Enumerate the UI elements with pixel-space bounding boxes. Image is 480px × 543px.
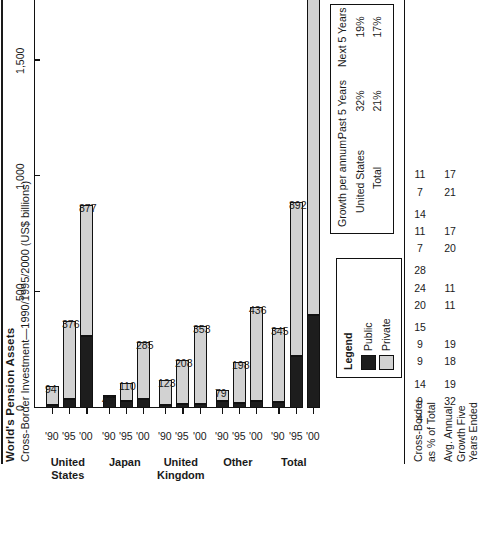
annotation-cell-share: 28	[400, 264, 440, 276]
bar-segment-private	[307, 0, 320, 315]
bar-value-label: 94	[45, 383, 57, 395]
value-tick-label: 1,000	[14, 147, 26, 207]
bar-value-label: 208	[175, 357, 193, 369]
category-tick-label: '90	[158, 430, 172, 442]
annotation-cell-growth: 21	[430, 186, 470, 198]
category-tick-label: '00	[249, 430, 263, 442]
group-label: United Kingdom	[155, 456, 207, 481]
bar-value-label: 345	[271, 325, 289, 337]
value-axis-line	[34, 0, 35, 408]
bar-value-label: 79	[215, 387, 227, 399]
bar-segment-private	[194, 326, 207, 404]
legend-swatch-public	[361, 355, 376, 370]
category-tick	[69, 408, 70, 414]
category-tick-label: '00	[79, 430, 93, 442]
value-tick-label: 1,500	[14, 31, 26, 91]
growth-row0-past: 32%	[354, 81, 366, 121]
bar-segment-public	[307, 315, 320, 408]
bar-value-label: 123	[158, 377, 176, 389]
category-tick-label: '90	[215, 430, 229, 442]
category-tick	[296, 408, 297, 414]
annotation-cell-growth: 11	[430, 299, 470, 311]
bar-value-label: 285	[136, 339, 154, 351]
table-row	[250, 307, 263, 408]
legend-box: Legend Public Private	[336, 258, 402, 378]
value-tick	[34, 175, 40, 176]
growth-row1-next: 17%	[371, 7, 383, 47]
category-tick	[126, 408, 127, 414]
category-tick-label: '90	[102, 430, 116, 442]
category-tick-label: '00	[136, 430, 150, 442]
table-row	[290, 202, 303, 408]
bar-value-label: 877	[79, 202, 97, 214]
annotation-cell-growth: 11	[430, 282, 470, 294]
group-label: Other	[212, 456, 264, 469]
bar-segment-public	[137, 399, 150, 408]
bar-value-label: 198	[232, 359, 250, 371]
category-tick	[86, 408, 87, 414]
annotation-cell-share: 14	[400, 208, 440, 220]
category-tick-label: '95	[62, 430, 76, 442]
bar-segment-public	[216, 401, 229, 408]
category-tick	[165, 408, 166, 414]
value-tick	[34, 407, 40, 408]
category-tick	[239, 408, 240, 414]
value-tick	[34, 59, 40, 60]
table-row	[80, 205, 93, 408]
bar-segment-private	[290, 202, 303, 356]
bar-segment-public	[120, 401, 133, 408]
growth-row0-next: 19%	[354, 7, 366, 47]
growth-col2-header: Next 5 Years	[336, 7, 348, 67]
category-tick-label: '90	[271, 430, 285, 442]
category-tick-label: '00	[306, 430, 320, 442]
bar-value-label: 49	[102, 394, 114, 406]
table-row	[194, 326, 207, 408]
annotation-cell-growth: 17	[430, 168, 470, 180]
table-row	[63, 321, 76, 408]
table-row	[137, 342, 150, 408]
growth-row0-label: United States	[354, 150, 366, 213]
category-tick	[256, 408, 257, 414]
bar-segment-public	[80, 336, 93, 408]
annotation-table: Cross-Border as % of Total Avg. Annual G…	[404, 0, 470, 470]
bar-value-label: 436	[249, 304, 267, 316]
annotation-cell-growth: 19	[430, 378, 470, 390]
annotation-cell-share: 15	[400, 321, 440, 333]
value-tick-label: 500	[14, 262, 26, 322]
table-row	[272, 328, 285, 408]
bar-value-label: 892	[289, 199, 307, 211]
category-tick	[143, 408, 144, 414]
growth-row1-label: Total	[371, 167, 383, 189]
annotation-cell-growth: 18	[430, 355, 470, 367]
category-tick	[52, 408, 53, 414]
category-tick	[200, 408, 201, 414]
legend-swatch-private	[379, 355, 394, 370]
growth-box: Growth per annum: Past 5 Years Next 5 Ye…	[330, 4, 394, 234]
group-label: Japan	[99, 456, 151, 469]
category-tick	[278, 408, 279, 414]
annotation-cell-growth: 17	[430, 225, 470, 237]
annotation-cell-growth: 20	[430, 242, 470, 254]
legend-label-public: Public	[362, 322, 374, 351]
value-tick	[34, 291, 40, 292]
category-tick-label: '95	[232, 430, 246, 442]
category-tick-label: '95	[289, 430, 303, 442]
annotation-row2-label: Avg. Annual Growth Five Years Ended	[442, 402, 480, 462]
top-rule	[1, 0, 3, 464]
bar-segment-private	[80, 205, 93, 336]
bar-segment-private	[250, 307, 263, 401]
growth-col1-header: Past 5 Years	[336, 80, 348, 139]
growth-header-label: Growth per annum:	[336, 137, 348, 227]
category-tick	[222, 408, 223, 414]
bar-value-label: 376	[62, 318, 80, 330]
legend-title: Legend	[342, 333, 354, 370]
table-row	[307, 0, 320, 408]
group-label: United States	[42, 456, 94, 481]
category-tick-label: '95	[119, 430, 133, 442]
category-tick	[182, 408, 183, 414]
annotation-cell-growth: 32	[430, 395, 470, 407]
category-tick-label: '90	[45, 430, 59, 442]
bar-segment-public	[63, 399, 76, 408]
growth-row1-past: 21%	[371, 81, 383, 121]
